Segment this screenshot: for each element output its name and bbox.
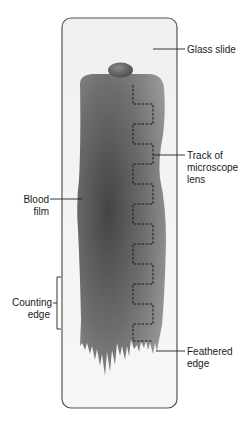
counting-edge-bracket xyxy=(57,277,61,329)
track-label-line1: Track of xyxy=(187,150,223,161)
feathered-edge-label-line1: Feathered xyxy=(187,346,233,357)
blood-film-diagram: Glass slide Track of microscope lens Blo… xyxy=(0,0,249,421)
glass-slide-label: Glass slide xyxy=(187,44,236,55)
blood-film-label-line2: film xyxy=(33,206,49,217)
counting-edge-label-line1: Counting xyxy=(12,297,52,308)
track-label-line3: lens xyxy=(187,174,205,185)
track-label-line2: microscope xyxy=(187,162,239,173)
blood-drop xyxy=(108,63,133,78)
counting-edge-label-line2: edge xyxy=(28,309,51,320)
blood-film-label-line1: Blood xyxy=(23,194,49,205)
feathered-edge-label-line2: edge xyxy=(187,358,210,369)
